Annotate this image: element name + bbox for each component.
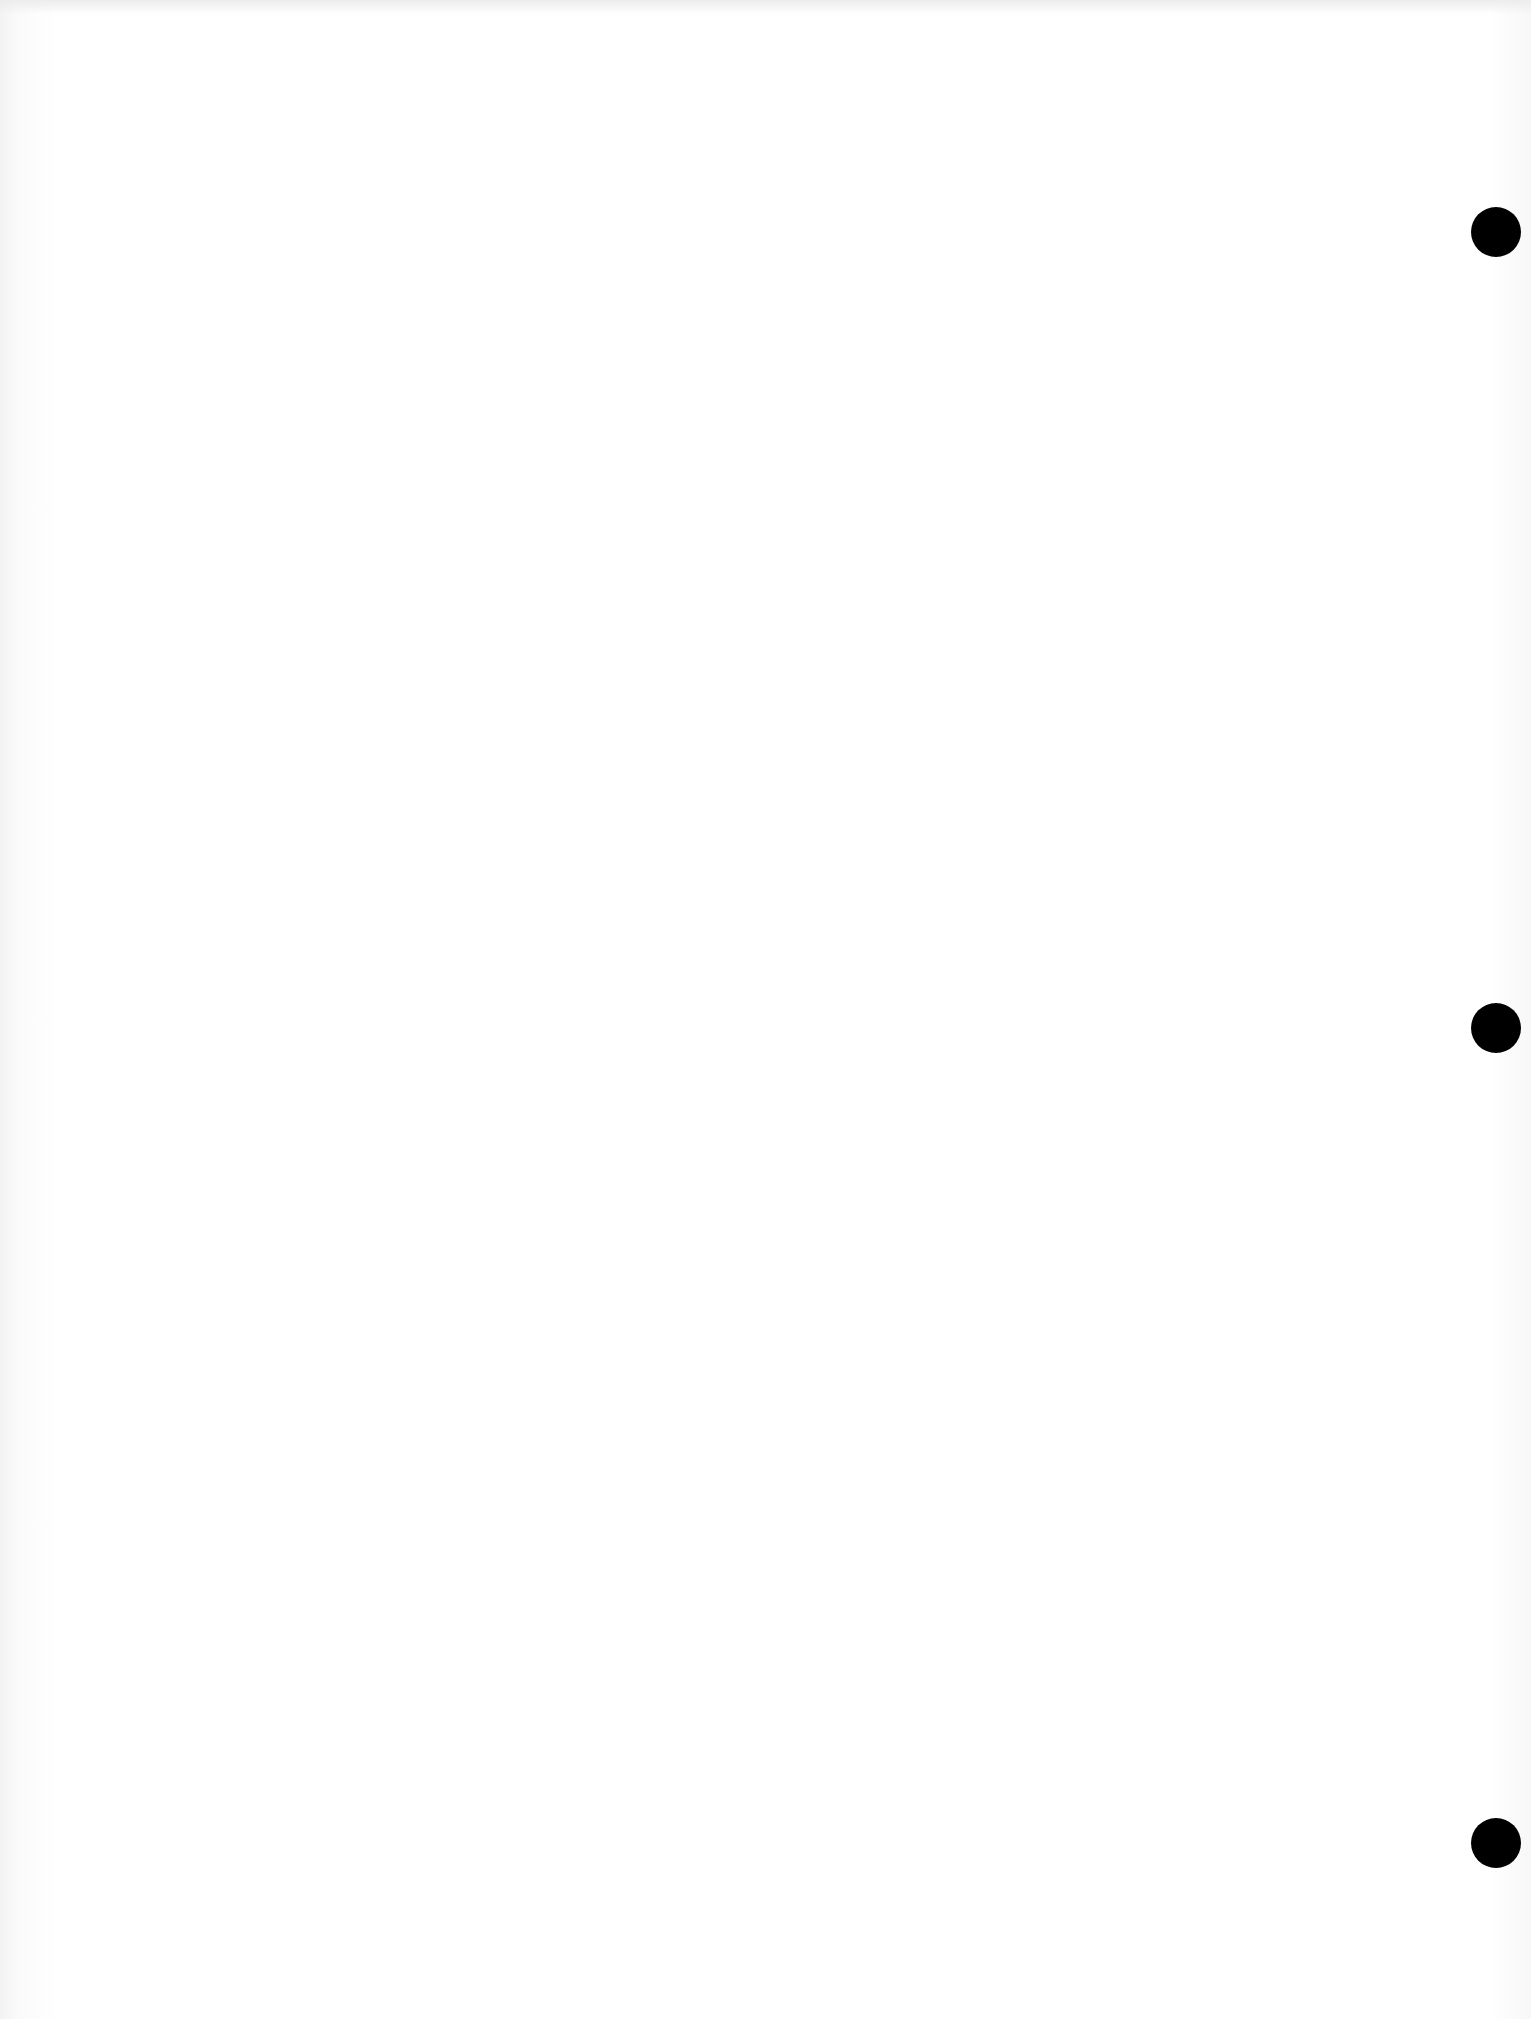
scanned-page <box>0 0 1531 2019</box>
scan-edge-shadow <box>0 0 1531 14</box>
punch-hole-top <box>1471 207 1521 257</box>
punch-hole-bottom <box>1471 1818 1521 1868</box>
punch-hole-middle <box>1471 1003 1521 1053</box>
